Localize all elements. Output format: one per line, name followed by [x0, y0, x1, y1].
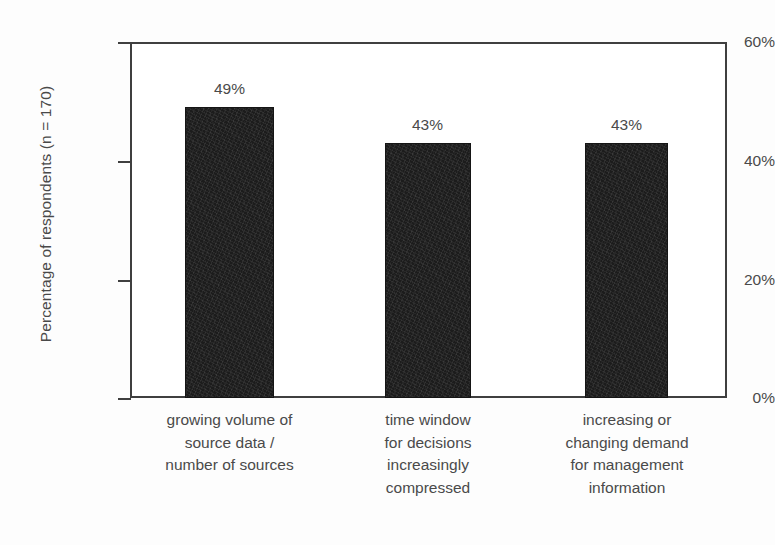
category-label-1-line-1: growing volume of [112, 409, 347, 432]
category-label-1-line-2: source data / [112, 432, 347, 455]
bar-value-1: 49% [175, 80, 284, 98]
category-label-2-line-1: time window [330, 409, 526, 432]
bar-1 [185, 107, 274, 398]
y-tick-label-60: 60% [719, 33, 775, 51]
category-label-3: increasing or changing demand for manage… [518, 409, 736, 499]
category-label-3-line-2: changing demand [518, 432, 736, 455]
category-label-2-line-3: increasingly [330, 454, 526, 477]
y-tick-label-0: 0% [719, 389, 775, 407]
bar-value-3: 43% [572, 116, 681, 134]
y-axis-title: Percentage of respondents (n = 170) [37, 24, 55, 404]
bar-3 [585, 143, 668, 398]
bar-value-2: 43% [373, 116, 482, 134]
category-label-2-line-4: compressed [330, 477, 526, 500]
category-label-2: time window for decisions increasingly c… [330, 409, 526, 499]
y-tick-label-20: 20% [719, 271, 775, 289]
category-label-3-line-3: for management [518, 454, 736, 477]
category-label-3-line-1: increasing or [518, 409, 736, 432]
bar-2 [385, 143, 471, 398]
category-label-2-line-2: for decisions [330, 432, 526, 455]
y-tick-label-40: 40% [719, 152, 775, 170]
bar-chart: Percentage of respondents (n = 170) 60% … [0, 0, 775, 545]
y-tick-mark-0 [118, 398, 131, 400]
category-label-1-line-3: number of sources [112, 454, 347, 477]
category-label-1: growing volume of source data / number o… [112, 409, 347, 477]
category-label-3-line-4: information [518, 477, 736, 500]
